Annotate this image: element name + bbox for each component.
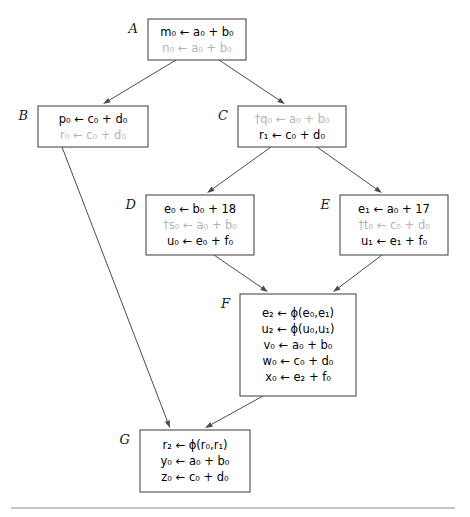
node-a[interactable]: Am₀ ← a₀ + b₀n₀ ← a₀ + b₀: [128, 19, 246, 60]
statement-a-1: n₀ ← a₀ + b₀: [162, 41, 232, 55]
statement-g-2: z₀ ← c₀ + d₀: [161, 470, 229, 484]
statement-f-0: e₂ ← ϕ(e₀,e₁): [262, 306, 334, 320]
statement-e-1: †t₀ ← c₀ + d₀: [358, 218, 430, 232]
node-label-a: A: [128, 21, 138, 36]
statement-a-0: m₀ ← a₀ + b₀: [160, 25, 234, 39]
statement-e-0: e₁ ← a₀ + 17: [358, 202, 430, 216]
statement-f-3: w₀ ← c₀ + d₀: [263, 354, 334, 368]
node-label-e: E: [320, 197, 331, 212]
statement-d-0: e₀ ← b₀ + 18: [164, 202, 236, 216]
node-g[interactable]: Gr₂ ← ϕ(r₀,r₁)y₀ ← a₀ + b₀z₀ ← c₀ + d₀: [120, 430, 250, 492]
cfg-canvas: Am₀ ← a₀ + b₀n₀ ← a₀ + b₀Bp₀ ← c₀ + d₀r₀…: [0, 0, 470, 517]
edge-f-to-g: [205, 396, 263, 428]
node-e[interactable]: Ee₁ ← a₀ + 17†t₀ ← c₀ + d₀u₁ ← e₁ + f₀: [320, 195, 449, 255]
edge-d-to-f: [214, 255, 268, 292]
statement-e-2: u₁ ← e₁ + f₀: [361, 234, 428, 248]
statement-c-0: †q₀ ← a₀ + b₀: [254, 112, 330, 126]
statement-g-0: r₂ ← ϕ(r₀,r₁): [162, 438, 227, 452]
statement-d-1: †s₀ ← a₀ + b₀: [163, 218, 237, 232]
node-label-b: B: [17, 108, 28, 123]
statement-f-1: u₂ ← ϕ(u₀,u₁): [262, 322, 335, 336]
edge-a-to-b: [103, 60, 176, 104]
statement-f-4: x₀ ← e₂ + f₀: [265, 370, 331, 384]
statement-b-0: p₀ ← c₀ + d₀: [59, 112, 128, 126]
node-b[interactable]: Bp₀ ← c₀ + d₀r₀ ← c₀ + d₀: [17, 106, 148, 147]
statement-b-1: r₀ ← c₀ + d₀: [60, 128, 126, 142]
node-f[interactable]: Fe₂ ← ϕ(e₀,e₁)u₂ ← ϕ(u₀,u₁)v₀ ← a₀ + b₀w…: [220, 294, 356, 396]
node-layer: Am₀ ← a₀ + b₀n₀ ← a₀ + b₀Bp₀ ← c₀ + d₀r₀…: [17, 19, 448, 492]
statement-d-2: u₀ ← e₀ + f₀: [167, 234, 234, 248]
node-label-g: G: [120, 432, 130, 447]
node-d[interactable]: De₀ ← b₀ + 18†s₀ ← a₀ + b₀u₀ ← e₀ + f₀: [125, 195, 254, 255]
node-c[interactable]: C†q₀ ← a₀ + b₀r₁ ← c₀ + d₀: [218, 106, 346, 147]
control-flow-graph: Am₀ ← a₀ + b₀n₀ ← a₀ + b₀Bp₀ ← c₀ + d₀r₀…: [0, 0, 470, 517]
edge-e-to-f: [333, 255, 382, 292]
edge-c-to-e: [317, 147, 382, 193]
node-label-d: D: [125, 197, 137, 212]
statement-g-1: y₀ ← a₀ + b₀: [161, 454, 230, 468]
edge-b-to-g: [62, 147, 170, 428]
edge-c-to-d: [207, 147, 271, 193]
node-label-f: F: [220, 296, 231, 311]
statement-f-2: v₀ ← a₀ + b₀: [264, 338, 333, 352]
edge-a-to-c: [219, 60, 285, 104]
node-label-c: C: [218, 108, 228, 123]
statement-c-1: r₁ ← c₀ + d₀: [259, 128, 325, 142]
